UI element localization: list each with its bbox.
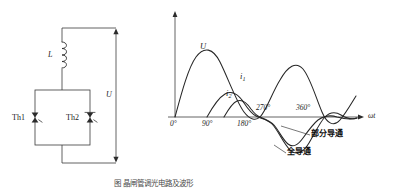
- leader-full-conduction: [274, 145, 286, 153]
- curve-label-i2: i2: [226, 89, 231, 99]
- curve-label-i1: i1: [240, 72, 245, 82]
- figure-graphics: [0, 0, 394, 188]
- y-axis-arrowhead: [173, 11, 178, 17]
- thyristor2-symbol: [85, 112, 98, 122]
- voltage-arrow-U: [113, 29, 118, 163]
- figure-container: L Th1 Th2 U U i1 i2 0° 90° 180° 270° 360…: [0, 0, 394, 188]
- leader-partial-conduction: [281, 126, 310, 135]
- tick-label-90: 90°: [202, 120, 213, 128]
- x-axis-arrowhead: [358, 115, 364, 120]
- curve-voltage-U: [175, 50, 356, 124]
- curve-label-U: U: [200, 42, 206, 51]
- tick-label-360: 360°: [296, 104, 310, 112]
- thyristor1-label: Th1: [12, 114, 25, 122]
- annotation-partial-conduction: 部分导通: [311, 130, 343, 138]
- figure-caption: 图 晶闸管调光电路及波形: [114, 180, 193, 188]
- x-axis-label: ωt: [368, 112, 375, 120]
- inductor-label: L: [48, 51, 52, 59]
- tick-label-180: 180°: [237, 120, 251, 128]
- inductor-symbol: [62, 42, 67, 68]
- tick-label-270: 270°: [256, 104, 270, 112]
- thyristor1-symbol: [32, 112, 43, 122]
- thyristor-parallel-box: [35, 90, 90, 145]
- voltage-label-U: U: [106, 91, 112, 99]
- thyristor2-label: Th2: [66, 114, 79, 122]
- curve-current-i1: [207, 93, 357, 153]
- tick-label-0: 0°: [170, 120, 177, 128]
- annotation-full-conduction: 全导通: [287, 148, 311, 156]
